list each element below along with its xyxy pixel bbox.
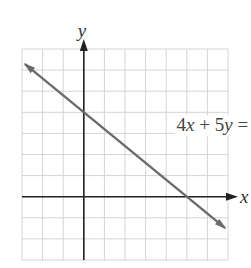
- x-axis-arrow-icon: [226, 193, 238, 201]
- x-axis-label: x: [239, 186, 249, 207]
- equation-label: 4x + 5y = 20: [177, 114, 251, 135]
- grid-lines: [22, 49, 228, 260]
- y-axis-label: y: [76, 20, 87, 41]
- graph-figure: 4x + 5y = 20 x y: [0, 0, 251, 268]
- coordinate-plane: 4x + 5y = 20 x y: [0, 0, 251, 268]
